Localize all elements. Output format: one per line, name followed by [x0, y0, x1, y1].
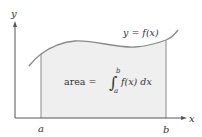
bound-label-a: a	[38, 123, 44, 134]
bound-label-b: b	[163, 124, 169, 135]
formula-prefix: area =	[64, 76, 96, 87]
curve-label: y = f(x)	[122, 27, 159, 38]
x-axis-arrow-icon	[181, 116, 187, 120]
integral-upper-limit: b	[116, 67, 121, 75]
y-axis-label: y	[10, 8, 17, 19]
integral-lower-limit: a	[114, 87, 118, 95]
y-axis-arrow-icon	[13, 21, 17, 27]
integrand: f(x) dx	[120, 76, 152, 87]
area-under-curve-diagram: y x a b y = f(x) area = ∫ b a f(x) dx	[0, 0, 202, 137]
x-axis-label: x	[189, 113, 195, 124]
